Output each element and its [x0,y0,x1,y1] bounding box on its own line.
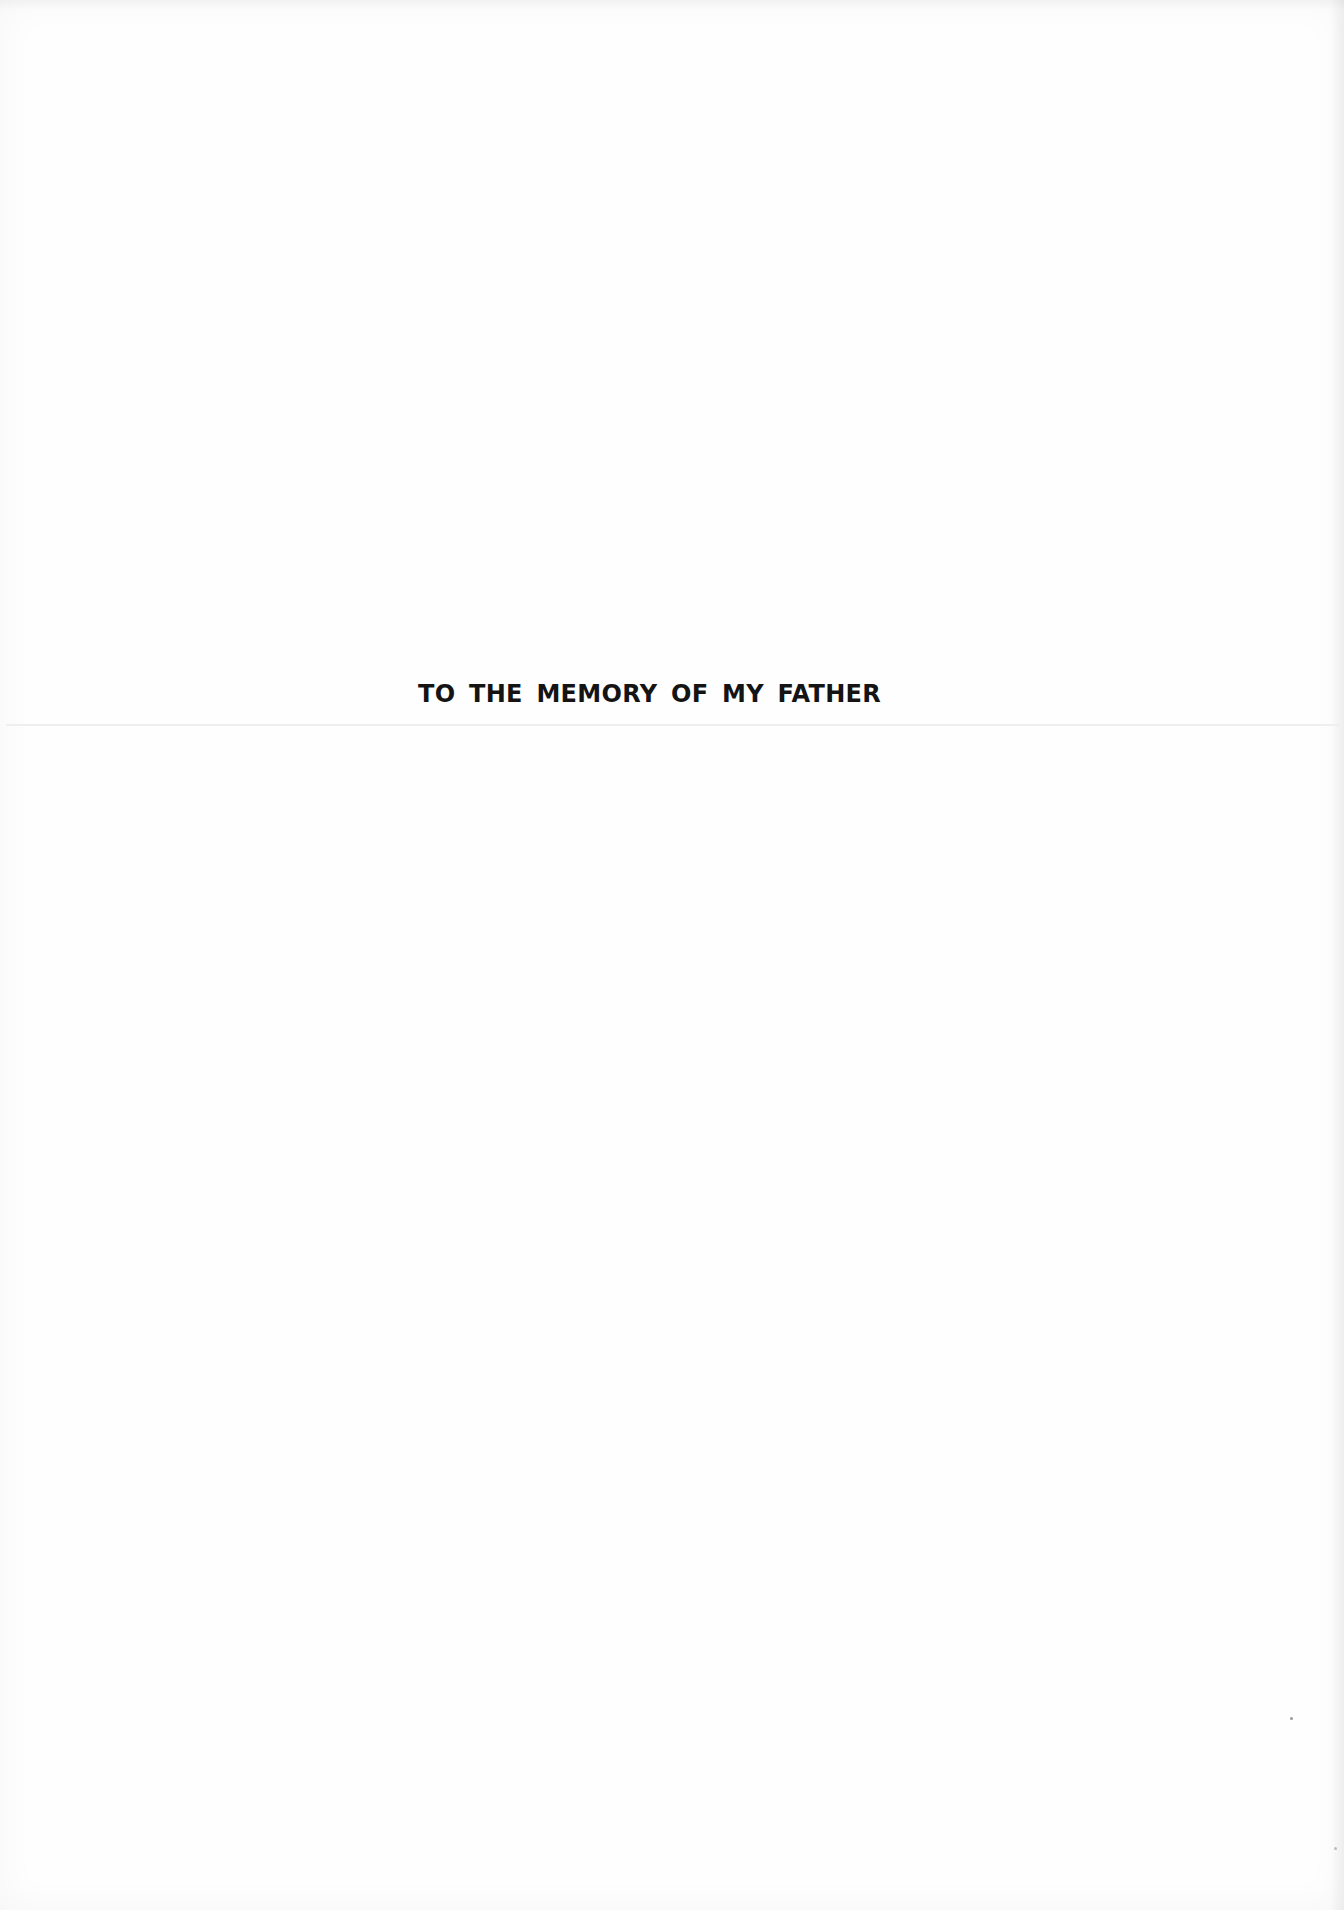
book-page: TO THE MEMORY OF MY FATHER [0,0,1344,1910]
scan-shadow-right [1330,0,1344,1910]
scan-speck [1290,1717,1293,1720]
scan-speck [1334,1847,1337,1850]
scan-shadow-top [0,0,1344,10]
dedication-text: TO THE MEMORY OF MY FATHER [418,679,881,709]
page-rule [6,724,1340,726]
